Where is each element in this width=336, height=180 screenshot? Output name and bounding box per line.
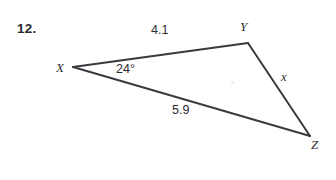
edge-xz: [73, 67, 310, 136]
angle-measure-x: 24°: [116, 63, 135, 76]
figure-page: 12. X Y Z 4.1 5.9 x 24°: [0, 0, 336, 180]
paper-speck: [231, 81, 234, 84]
vertex-label-z: Z: [311, 138, 318, 151]
side-length-xy: 4.1: [151, 24, 169, 37]
side-unknown-yz: x: [281, 71, 287, 84]
side-length-xz: 5.9: [172, 104, 190, 117]
vertex-label-x: X: [56, 61, 64, 74]
problem-number: 12.: [17, 22, 36, 36]
edge-xy: [73, 43, 248, 67]
vertex-label-y: Y: [240, 20, 247, 33]
edge-yz: [248, 43, 310, 136]
